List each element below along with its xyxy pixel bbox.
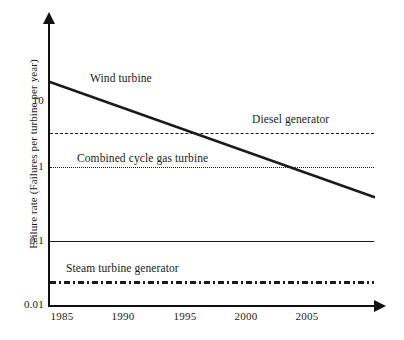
y-tick-label-1: 1 — [4, 161, 44, 172]
annotation-diesel-generator: Diesel generator — [252, 113, 329, 126]
x-axis-line — [48, 305, 374, 307]
y-tick-label-0.01: 0.01 — [4, 299, 44, 310]
x-tick-label-2005: 2005 — [284, 310, 330, 322]
y-tick-label-0.1: 0.1 — [4, 235, 44, 246]
series-line-steam-turbine-generator-lower — [50, 281, 374, 284]
x-tick-label-1995: 1995 — [162, 310, 208, 322]
series-line-wind-turbine — [48, 20, 378, 250]
annotation-combined-cycle-gas-turbine: Combined cycle gas turbine — [77, 152, 208, 165]
x-tick-label-2000: 2000 — [223, 310, 269, 322]
x-axis-arrow-icon — [374, 300, 386, 312]
x-tick-label-1990: 1990 — [100, 310, 146, 322]
x-tick-label-1985: 1985 — [39, 310, 85, 322]
failure-rate-chart: Failure rate (Failures per turbine per y… — [0, 0, 404, 340]
annotation-wind-turbine: Wind turbine — [90, 72, 152, 85]
annotation-steam-turbine-generator: Steam turbine generator — [66, 262, 179, 275]
y-tick-label-10: 10 — [4, 95, 44, 106]
